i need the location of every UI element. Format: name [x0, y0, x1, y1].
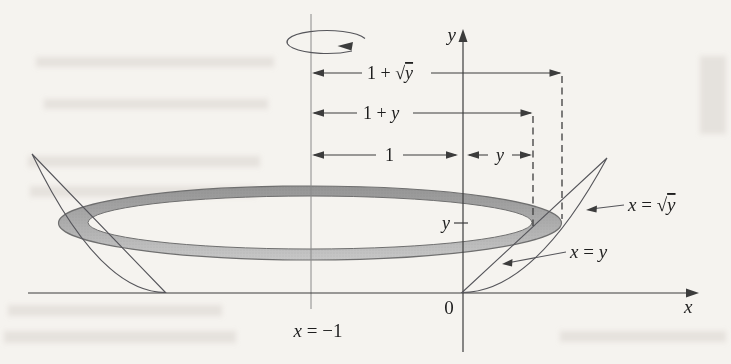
inner-radius-label: 1 + y — [363, 103, 399, 123]
sqrt-curve-label: x = √y — [627, 194, 676, 215]
origin-label: 0 — [444, 297, 454, 318]
figure-container: 1 + √y 1 + y 1 y y x = √y x = y — [0, 0, 731, 364]
outer-radius-label: 1 + √y — [367, 63, 413, 83]
y-axis-label: y — [446, 24, 457, 45]
y-height-label: y — [440, 213, 450, 233]
unit-label: 1 — [385, 145, 394, 165]
rotation-axis-label: x = −1 — [293, 320, 343, 341]
x-axis-label: x — [683, 296, 693, 317]
revolution-diagram: 1 + √y 1 + y 1 y y x = √y x = y — [0, 0, 731, 364]
y-offset-label: y — [494, 145, 504, 165]
line-curve-label: x = y — [569, 241, 608, 262]
